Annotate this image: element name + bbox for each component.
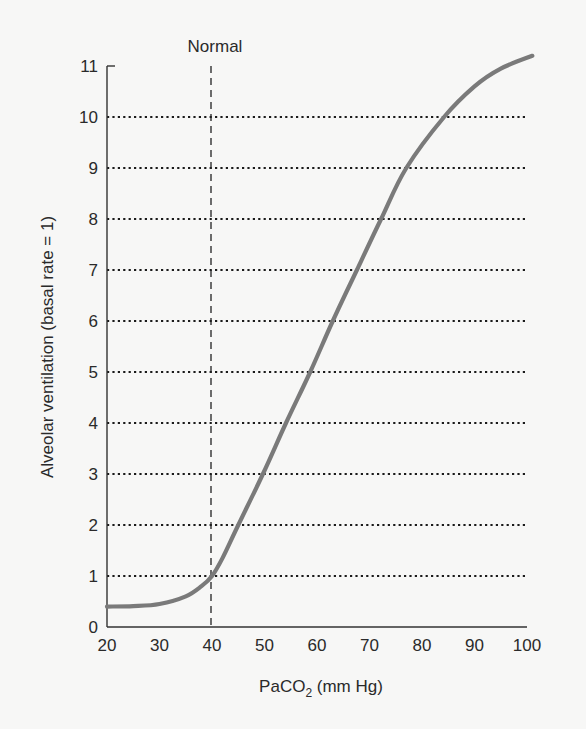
chart-canvas: Normal 012345678910112030405060708090100… (0, 0, 586, 729)
x-tick-label: 20 (98, 636, 117, 655)
y-tick-label: 3 (89, 465, 98, 484)
y-tick-label: 9 (89, 159, 98, 178)
x-tick-label: 90 (465, 636, 484, 655)
x-tick-label: 70 (360, 636, 379, 655)
ventilation-co2-chart: Normal 012345678910112030405060708090100… (0, 0, 586, 729)
x-tick-label: 100 (513, 636, 541, 655)
y-tick-label: 0 (89, 618, 98, 637)
gridlines (107, 117, 525, 576)
x-tick-label: 40 (203, 636, 222, 655)
x-axis-title: PaCO2 (mm Hg) (259, 677, 383, 700)
x-tick-label: 80 (413, 636, 432, 655)
normal-label: Normal (188, 37, 243, 56)
y-axis-title: Alveolar ventilation (basal rate = 1) (38, 216, 57, 478)
x-tick-label: 60 (308, 636, 327, 655)
axes (107, 66, 527, 627)
y-tick-label: 5 (89, 363, 98, 382)
y-tick-label: 1 (89, 567, 98, 586)
x-tick-label: 50 (255, 636, 274, 655)
y-tick-label: 8 (89, 210, 98, 229)
y-tick-label: 4 (89, 414, 98, 433)
x-tick-label: 30 (150, 636, 169, 655)
y-tick-label: 7 (89, 261, 98, 280)
y-tick-label: 6 (89, 312, 98, 331)
y-tick-label: 11 (80, 57, 98, 76)
y-tick-label: 10 (79, 108, 98, 127)
tick-labels: 012345678910112030405060708090100 (79, 57, 541, 655)
y-tick-label: 2 (89, 516, 98, 535)
